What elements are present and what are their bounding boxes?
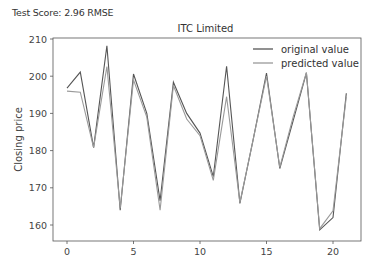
chart-series [67,46,346,230]
y-axis-label: Closing price [13,107,24,172]
y-tick-label: 160 [29,220,47,231]
x-tick-label: 0 [64,246,70,257]
y-tick-label: 190 [29,108,47,119]
y-tick-label: 210 [29,34,47,45]
y-tick-label: 170 [29,182,47,193]
x-tick-label: 10 [194,246,206,257]
legend-label: original value [281,44,349,55]
predicted-value-line [67,67,346,229]
original-value-line [67,46,346,230]
x-tick-label: 15 [260,246,272,257]
y-tick-label: 180 [29,145,47,156]
x-tick-label: 5 [130,246,136,257]
chart-legend: original valuepredicted value [253,44,359,69]
line-chart: 16017018019020021005101520Closing price … [0,0,375,270]
x-tick-label: 20 [327,246,339,257]
legend-label: predicted value [281,58,359,69]
y-tick-label: 200 [29,71,47,82]
